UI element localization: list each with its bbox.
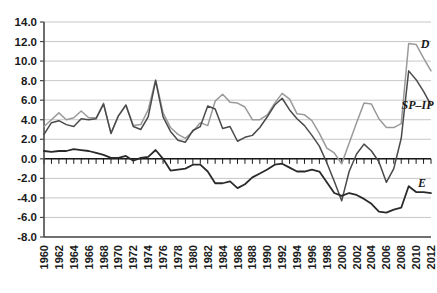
- series-label-sp-ip: SP–IP: [402, 98, 435, 112]
- y-tick-label: -8.0: [17, 231, 37, 243]
- x-tick-label: 2010: [410, 245, 422, 269]
- series-line-d: [44, 44, 431, 164]
- x-tick-label: 1962: [53, 245, 65, 269]
- y-axis-labels: 14.012.010.08.06.04.02.00.0-2.0-4.0-6.0-…: [15, 16, 37, 243]
- y-tick-label: 14.0: [15, 16, 37, 28]
- x-tick-label: 1982: [202, 245, 214, 269]
- x-tick-label: 1986: [232, 245, 244, 269]
- x-tick-label: 1970: [112, 245, 124, 269]
- series-label-d: D: [420, 37, 430, 51]
- data-series: [44, 44, 431, 213]
- x-tick-label: 2012: [425, 245, 437, 269]
- x-tick-label: 1960: [38, 245, 50, 269]
- x-tick-label: 1994: [291, 244, 303, 269]
- series-line-sp-ip: [44, 71, 431, 201]
- x-tick-label: 1998: [321, 245, 333, 269]
- x-axis-tickmarks: [44, 159, 431, 164]
- x-tick-label: 2006: [380, 245, 392, 269]
- x-tick-label: 1978: [172, 245, 184, 269]
- x-tick-label: 2002: [351, 245, 363, 269]
- x-tick-label: 1980: [187, 245, 199, 269]
- x-tick-label: 1968: [98, 245, 110, 269]
- x-tick-label: 1990: [261, 245, 273, 269]
- x-tick-label: 2008: [395, 245, 407, 269]
- x-tick-label: 1988: [246, 245, 258, 269]
- x-tick-label: 2000: [336, 245, 348, 269]
- x-tick-label: 1966: [83, 245, 95, 269]
- x-tick-label: 1974: [142, 244, 154, 269]
- y-tick-label: -6.0: [17, 211, 37, 223]
- line-chart: 14.012.010.08.06.04.02.00.0-2.0-4.0-6.0-…: [0, 0, 437, 293]
- y-tick-label: 2.0: [21, 133, 37, 145]
- y-tick-label: 8.0: [21, 75, 37, 87]
- x-tick-label: 1976: [157, 245, 169, 269]
- y-tick-label: 12.0: [15, 36, 37, 48]
- y-tick-label: 10.0: [15, 55, 37, 67]
- y-tick-label: 6.0: [21, 94, 37, 106]
- x-axis-labels: 1960196219641966196819701972197419761978…: [38, 244, 437, 269]
- y-tick-label: -2.0: [17, 172, 37, 184]
- x-tick-label: 1972: [127, 245, 139, 269]
- series-label-e: E: [417, 176, 426, 190]
- x-tick-label: 1964: [68, 244, 80, 269]
- x-tick-label: 2004: [365, 244, 377, 269]
- x-tick-label: 1996: [306, 245, 318, 269]
- chart-container: 14.012.010.08.06.04.02.00.0-2.0-4.0-6.0-…: [0, 0, 437, 293]
- y-tick-label: 4.0: [21, 114, 37, 126]
- x-tick-label: 1992: [276, 245, 288, 269]
- y-tick-label: -4.0: [17, 192, 37, 204]
- y-tick-label: 0.0: [21, 153, 37, 165]
- x-tick-label: 1984: [217, 244, 229, 269]
